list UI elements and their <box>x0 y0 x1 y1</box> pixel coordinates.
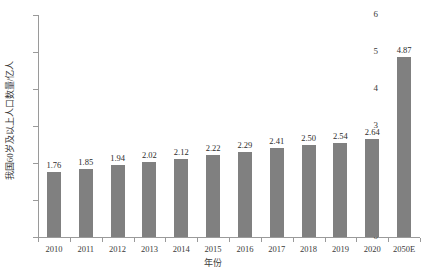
y-tick <box>33 89 38 90</box>
bar <box>79 169 93 237</box>
y-tick-label: 5 <box>358 46 378 56</box>
x-tick <box>38 238 39 242</box>
x-tick <box>356 238 357 242</box>
x-tick <box>293 238 294 242</box>
x-tick <box>261 238 262 242</box>
x-tick-label: 2050E <box>384 244 424 254</box>
plot-area: 0123456 20102011201220132014201520162017… <box>38 15 420 238</box>
bar <box>111 165 125 237</box>
bar <box>142 162 156 237</box>
x-tick <box>197 238 198 242</box>
x-tick <box>102 238 103 242</box>
x-tick <box>134 238 135 242</box>
x-axis-title: 年份 <box>0 256 425 269</box>
bar-value-label: 4.87 <box>384 45 424 55</box>
x-tick <box>70 238 71 242</box>
bar <box>174 159 188 237</box>
x-tick <box>420 238 421 242</box>
bar <box>333 143 347 237</box>
x-tick <box>388 238 389 242</box>
x-tick <box>165 238 166 242</box>
x-tick <box>325 238 326 242</box>
bar <box>397 57 411 237</box>
bar <box>47 172 61 237</box>
y-tick <box>33 200 38 201</box>
y-axis-line <box>38 15 39 238</box>
bar <box>206 155 220 237</box>
y-tick-label: 4 <box>358 83 378 93</box>
y-axis-title-label: 我国60岁及以上人口数量/亿人 <box>4 60 17 180</box>
y-axis-title: 我国60岁及以上人口数量/亿人 <box>0 0 20 240</box>
y-tick <box>33 52 38 53</box>
bar-value-label: 2.64 <box>352 127 392 137</box>
x-tick <box>229 238 230 242</box>
bar <box>270 148 284 237</box>
bar <box>302 145 316 238</box>
bar-chart: 我国60岁及以上人口数量/亿人 0123456 2010201120122013… <box>0 0 425 277</box>
bar <box>238 152 252 237</box>
bar <box>365 139 379 237</box>
y-tick-label: 6 <box>358 9 378 19</box>
y-tick <box>33 126 38 127</box>
y-tick <box>33 15 38 16</box>
